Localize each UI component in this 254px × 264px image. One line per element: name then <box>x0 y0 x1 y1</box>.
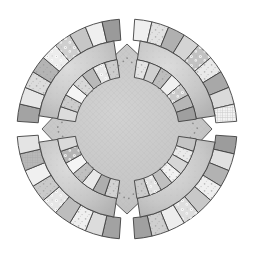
quilt-block-illustration <box>0 0 254 264</box>
quilt-block-canvas: Double Wedding Ring Quilt Block <box>0 0 254 264</box>
